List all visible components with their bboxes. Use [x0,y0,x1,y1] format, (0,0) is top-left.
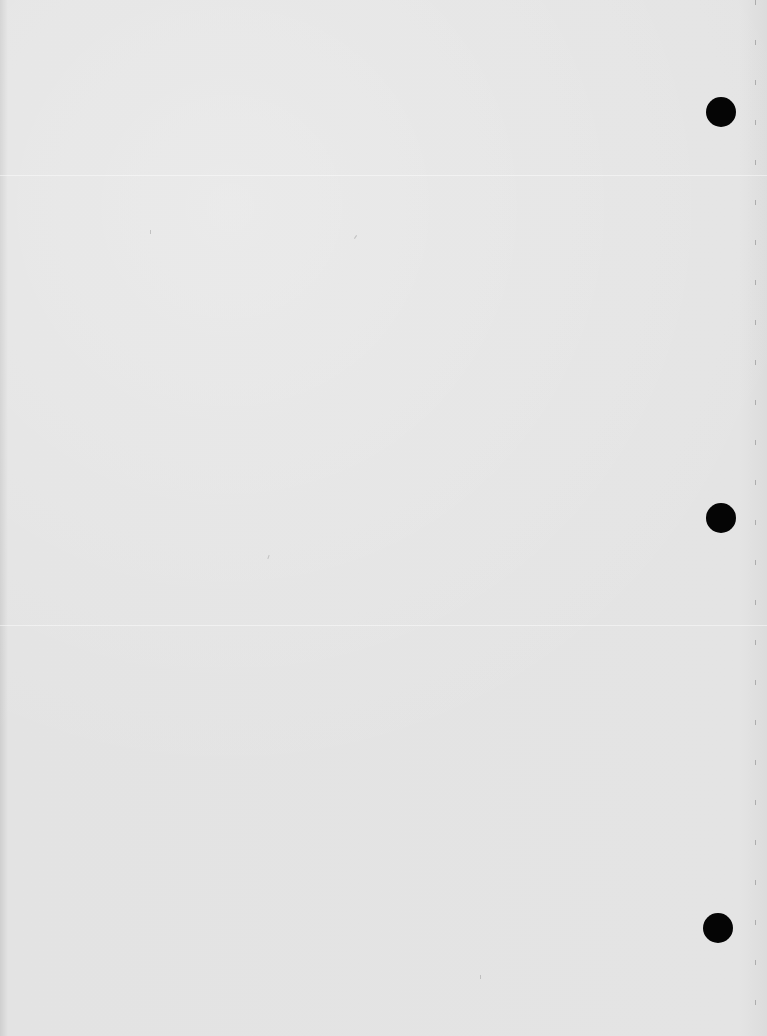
paper-speck [480,975,481,979]
punch-hole-middle [706,503,736,533]
paper-speck [267,555,269,559]
crease-line [0,625,767,626]
punch-hole-top [706,97,736,127]
paper-speck [150,230,151,234]
punch-hole-bottom [703,913,733,943]
crease-line [0,175,767,176]
scanned-blank-page [0,0,767,1036]
paper-speck [354,235,357,239]
page-edge-dashes [755,0,756,1036]
